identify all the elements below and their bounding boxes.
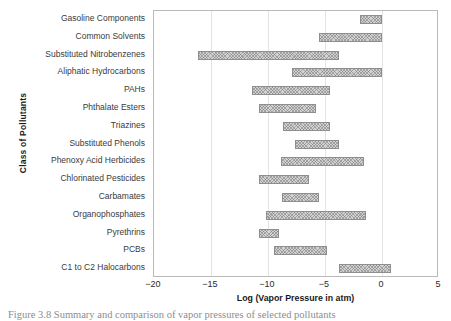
category-label: Substituted Phenols bbox=[69, 135, 145, 153]
category-label: PAHs bbox=[124, 81, 145, 99]
bar-row bbox=[154, 118, 437, 136]
bar-row bbox=[154, 225, 437, 243]
range-bar[interactable] bbox=[252, 86, 330, 95]
category-label: Chlorinated Pesticides bbox=[60, 170, 145, 188]
bar-row bbox=[154, 29, 437, 47]
range-bar[interactable] bbox=[198, 51, 338, 60]
range-bar[interactable] bbox=[274, 246, 328, 255]
range-bar[interactable] bbox=[360, 15, 382, 24]
category-label: Triazines bbox=[111, 117, 145, 135]
bar-row bbox=[154, 260, 437, 278]
bar-row bbox=[154, 64, 437, 82]
x-tick-label: −10 bbox=[247, 279, 287, 289]
x-tick-label: −20 bbox=[133, 279, 173, 289]
figure-container: Class of Pollutants Gasoline ComponentsC… bbox=[0, 0, 451, 321]
range-bar[interactable] bbox=[259, 104, 316, 113]
x-tick-label: 5 bbox=[418, 279, 451, 289]
range-bar[interactable] bbox=[259, 175, 309, 184]
category-label: Substituted Nitrobenzenes bbox=[45, 46, 145, 64]
range-bar[interactable] bbox=[282, 193, 320, 202]
figure-caption: Figure 3.8 Summary and comparison of vap… bbox=[8, 309, 448, 321]
bar-row bbox=[154, 207, 437, 225]
x-tick-label: 0 bbox=[361, 279, 401, 289]
range-bar[interactable] bbox=[266, 211, 366, 220]
bar-row bbox=[154, 171, 437, 189]
bar-row bbox=[154, 11, 437, 29]
bar-row bbox=[154, 136, 437, 154]
range-bar[interactable] bbox=[295, 140, 338, 149]
range-bar[interactable] bbox=[292, 68, 382, 77]
bar-row bbox=[154, 82, 437, 100]
x-axis-title: Log (Vapor Pressure in atm) bbox=[153, 293, 438, 303]
range-bar[interactable] bbox=[283, 122, 330, 131]
category-label: Phthalate Esters bbox=[83, 99, 145, 117]
x-axis-tick-labels: −20−15−10−505 bbox=[153, 279, 438, 292]
bar-row bbox=[154, 153, 437, 171]
category-label: Carbamates bbox=[99, 188, 145, 206]
category-label: C1 to C2 Halocarbons bbox=[61, 259, 145, 277]
plot-area bbox=[153, 10, 438, 277]
category-label: Common Solvents bbox=[76, 28, 145, 46]
x-tick-label: −5 bbox=[304, 279, 344, 289]
range-bar[interactable] bbox=[259, 229, 280, 238]
range-bar[interactable] bbox=[281, 157, 364, 166]
bar-row bbox=[154, 189, 437, 207]
bar-row bbox=[154, 242, 437, 260]
category-label: Pyrethrins bbox=[107, 224, 145, 242]
x-tick-label: −15 bbox=[190, 279, 230, 289]
category-label: Gasoline Components bbox=[61, 10, 145, 28]
range-bar[interactable] bbox=[339, 264, 391, 273]
category-label: Organophosphates bbox=[73, 206, 145, 224]
category-label: Aliphatic Hydrocarbons bbox=[58, 63, 145, 81]
bar-row bbox=[154, 47, 437, 65]
category-axis: Gasoline ComponentsCommon SolventsSubsti… bbox=[0, 10, 149, 277]
category-label: PCBs bbox=[123, 241, 145, 259]
range-bar[interactable] bbox=[319, 33, 382, 42]
bar-row bbox=[154, 100, 437, 118]
category-label: Phenoxy Acid Herbicides bbox=[51, 152, 145, 170]
